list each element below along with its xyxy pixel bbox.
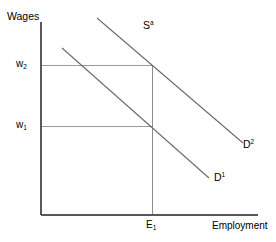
diagram-canvas bbox=[0, 0, 276, 242]
supply-curve-label: Sa bbox=[143, 20, 154, 31]
y-axis-title: Wages bbox=[7, 11, 39, 22]
y-tick-w2-subscript: 2 bbox=[23, 63, 27, 70]
demand-1-label-superscript: 1 bbox=[222, 171, 226, 178]
x-tick-e1-subscript: 1 bbox=[153, 224, 157, 231]
y-tick-label-w1: w1 bbox=[16, 120, 27, 130]
supply-label-main: S bbox=[143, 19, 150, 31]
demand-2-label-superscript: 2 bbox=[251, 138, 255, 145]
x-tick-label-e1: E1 bbox=[146, 220, 156, 230]
demand-curve-1-label: D1 bbox=[214, 172, 225, 183]
supply-curve bbox=[97, 18, 243, 143]
demand-curve-2-label: D2 bbox=[243, 139, 254, 150]
demand-2-label-main: D bbox=[243, 138, 251, 150]
demand-curve-1 bbox=[62, 48, 209, 178]
y-tick-w1-subscript: 1 bbox=[23, 124, 27, 131]
demand-1-label-main: D bbox=[214, 171, 222, 183]
x-tick-e1-main: E bbox=[146, 219, 153, 230]
supply-label-superscript: a bbox=[150, 19, 154, 26]
y-tick-label-w2: w2 bbox=[16, 59, 27, 69]
wage-employment-diagram: Wages Employment w2 w1 E1 Sa D1 D2 bbox=[0, 0, 276, 242]
x-axis-title: Employment bbox=[212, 221, 268, 231]
